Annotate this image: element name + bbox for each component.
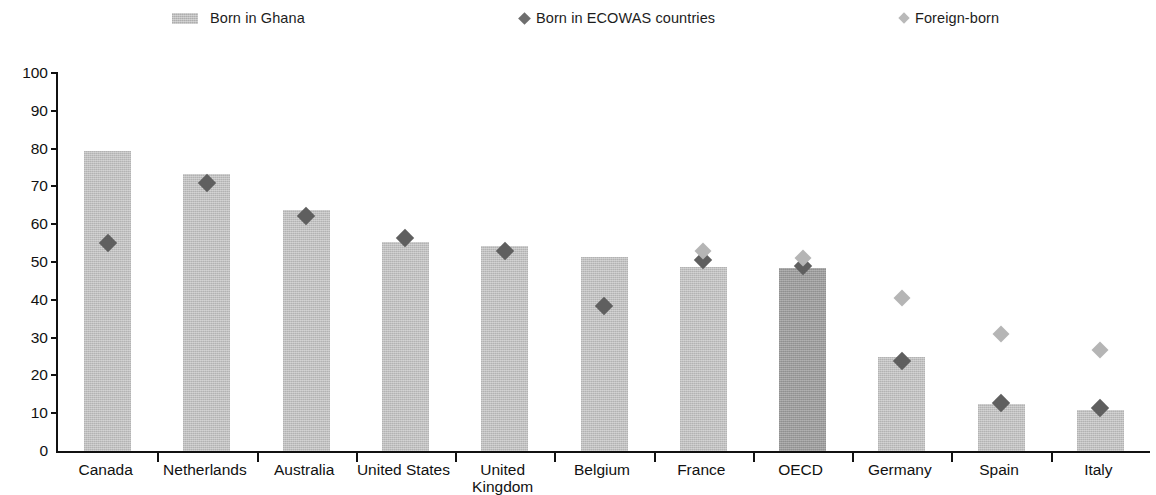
foreign-born-marker — [1092, 342, 1109, 359]
y-axis-tick-label: 70 — [4, 178, 48, 194]
y-axis-tick-label: 60 — [4, 216, 48, 232]
x-axis-category-label: United Kingdom — [453, 461, 552, 495]
x-axis-category-label: OECD — [751, 461, 850, 478]
bar — [481, 246, 528, 451]
x-axis-category-label: Australia — [255, 461, 354, 478]
bar — [779, 268, 826, 451]
x-axis-category-label: Italy — [1049, 461, 1148, 478]
x-axis-category-label: France — [652, 461, 751, 478]
y-axis-tick-label: 40 — [4, 292, 48, 308]
y-axis-tick-label: 100 — [4, 65, 48, 81]
bar — [878, 357, 925, 451]
y-axis-tick — [51, 337, 58, 339]
foreign-born-marker — [993, 325, 1010, 342]
y-axis-tick — [51, 185, 58, 187]
y-axis-tick — [51, 299, 58, 301]
x-axis-category-label: Germany — [850, 461, 949, 478]
foreign-born-marker — [893, 290, 910, 307]
y-axis-tick — [51, 261, 58, 263]
x-axis-category-label: Belgium — [552, 461, 651, 478]
y-axis-tick-label: 0 — [4, 443, 48, 459]
plot-area — [56, 73, 1150, 453]
y-axis-tick-label: 90 — [4, 103, 48, 119]
x-axis-category-label: Canada — [56, 461, 155, 478]
bar — [283, 210, 330, 451]
x-axis-category-label: United States — [354, 461, 453, 478]
y-axis-tick-label: 80 — [4, 141, 48, 157]
y-axis-tick-label: 50 — [4, 254, 48, 270]
bar — [581, 257, 628, 451]
y-axis-tick-label: 10 — [4, 405, 48, 421]
bar — [382, 242, 429, 451]
bar — [183, 174, 230, 451]
y-axis-tick — [51, 223, 58, 225]
y-axis-tick — [51, 148, 58, 150]
y-axis-tick — [51, 374, 58, 376]
y-axis-tick — [51, 110, 58, 112]
y-axis-tick-label: 30 — [4, 330, 48, 346]
x-axis-category-label: Spain — [949, 461, 1048, 478]
x-axis-category-label: Netherlands — [155, 461, 254, 478]
y-axis-tick — [51, 412, 58, 414]
bar — [680, 267, 727, 451]
y-axis-tick-label: 20 — [4, 367, 48, 383]
y-axis-tick — [51, 72, 58, 74]
bar — [84, 151, 131, 451]
